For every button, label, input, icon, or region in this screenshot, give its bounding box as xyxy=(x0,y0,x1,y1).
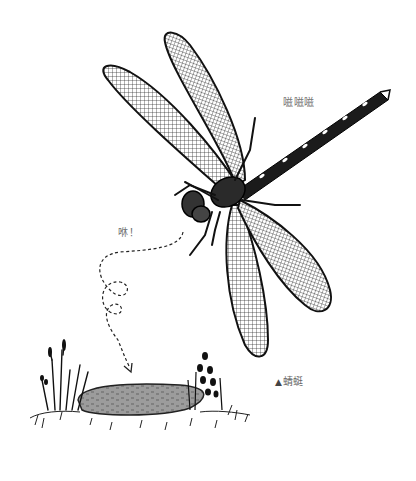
whoosh-sound-effect: 咻！ xyxy=(118,224,139,239)
buzz-sound-effect: 嗞嗞嗞 xyxy=(283,94,315,109)
dragonfly-illustration xyxy=(0,0,416,481)
triangle-marker-icon: ▲ xyxy=(275,377,282,387)
dragonfly-head xyxy=(182,191,210,222)
flight-path xyxy=(100,232,183,368)
caption-text: 蜻蜓 xyxy=(283,376,303,387)
figure-caption: ▲蜻蜓 xyxy=(275,373,303,388)
pond xyxy=(78,384,204,415)
